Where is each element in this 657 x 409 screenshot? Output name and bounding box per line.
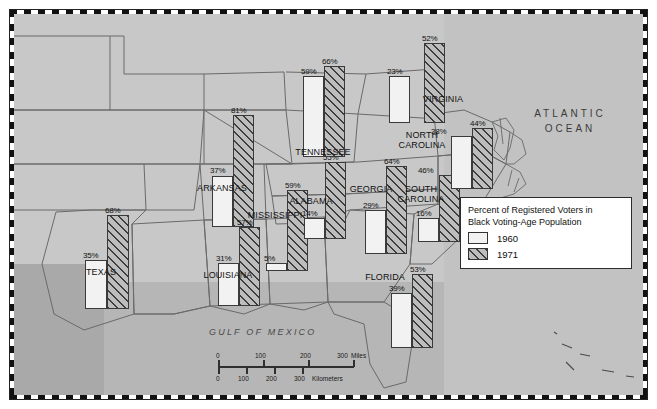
atlantic-ocean-label: ATLANTIC OCEAN [500,106,640,136]
bar-label-arkansas-1971: 81% [231,106,246,115]
scale-tick-miles-0 [218,360,220,367]
bar-label-arkansas-1960: 37% [210,166,225,175]
bar-north-carolina-1960 [451,136,472,189]
legend-title-line2: Black Voting-Age Population [468,216,624,228]
scale-tick-km-100 [246,367,248,374]
bar-label-texas-1960: 35% [83,251,98,260]
state-label-alabama: ALABAMA [279,196,343,206]
bar-label-virginia-1971: 52% [422,34,437,43]
legend-swatch-1971-icon [468,248,488,260]
bar-tennessee-1960 [303,76,324,157]
scale-tick-km-200 [274,367,276,374]
bar-florida-1960 [391,293,412,348]
bar-alabama-1960 [304,218,325,239]
bar-label-south-carolina-1971: 46% [418,166,433,175]
scale-unit-miles: Miles [351,352,366,359]
atlantic-ocean-label-line2: OCEAN [545,123,596,134]
legend-entry-1960: 1960 [468,232,624,244]
scale-tick-km-0 [218,367,220,374]
state-label-florida: FLORIDA [358,272,412,282]
bar-louisiana-1971 [239,227,260,306]
bar-label-tennessee-1960: 59% [301,67,316,76]
scale-tick-miles-200 [308,360,310,367]
bar-tennessee-1971 [324,66,345,157]
legend-title-line1: Percent of Registered Voters in [468,204,624,216]
state-label-virginia: VIRGINIA [412,94,474,104]
atlantic-ocean-label-line1: ATLANTIC [534,108,606,119]
scale-unit-km: Kilometers [312,375,343,382]
bar-south-carolina-1960 [418,218,439,242]
scale-label-km-300: 300 [294,375,305,382]
scale-tick-miles-100 [263,360,265,367]
state-label-louisiana: LOUISIANA [194,270,262,280]
scale-tick-miles-300 [353,360,355,367]
scale-label-km-100: 100 [238,375,249,382]
state-label-north-carolina: NORTH CAROLINA [390,130,454,150]
map-scale-bar: 0 100 200 300 Miles 0 100 200 300 Kilome… [212,352,372,386]
state-label-tennessee: TENNESSEE [284,147,362,157]
bar-label-mississippi-1960: 5% [264,254,275,263]
scale-label-km-0: 0 [216,375,220,382]
bar-mississippi-1960 [266,263,287,271]
bar-label-tennessee-1971: 66% [322,57,337,66]
scale-label-miles-100: 100 [255,352,266,359]
bar-georgia-1971 [386,166,407,254]
bar-label-georgia-1960: 29% [363,201,378,210]
bar-label-texas-1971: 68% [105,206,120,215]
scale-bar-line [218,366,354,368]
bar-label-alabama-1960: 14% [302,209,317,218]
state-label-south-carolina-line1: SOUTH [405,184,437,194]
bar-label-virginia-1960: 23% [387,67,402,76]
scale-label-km-200: 200 [266,375,277,382]
state-label-north-carolina-line1: NORTH [406,130,438,140]
bar-texas-1971 [107,215,129,309]
gulf-of-mexico-label: GULF OF MEXICO [209,327,316,337]
scale-tick-km-300 [302,367,304,374]
bar-label-georgia-1971: 64% [384,157,399,166]
bar-florida-1971 [412,274,433,348]
bar-north-carolina-1971 [472,128,493,189]
state-label-arkansas: ARKANSAS [189,183,255,193]
scale-label-miles-0: 0 [216,352,220,359]
bar-label-florida-1960: 39% [389,284,404,293]
legend-label-1971: 1971 [497,249,518,260]
bar-label-louisiana-1960: 31% [216,254,231,263]
bar-label-north-carolina-1971: 44% [470,119,485,128]
scale-label-miles-200: 200 [300,352,311,359]
bar-georgia-1960 [365,210,386,254]
legend-swatch-1960-icon [468,232,488,244]
bar-virginia-1960 [389,76,410,123]
state-label-texas: TEXAS [78,267,124,277]
bar-label-florida-1971: 53% [410,265,425,274]
voter-registration-map: 35% 68% TEXAS 37% 81% ARKANSAS 31% 57% L… [0,0,657,409]
bar-virginia-1971 [424,43,445,123]
scale-label-miles-300: 300 [337,352,348,359]
bar-label-mississippi-1971: 59% [285,181,300,190]
map-legend: Percent of Registered Voters in Black Vo… [460,197,632,269]
legend-label-1960: 1960 [497,233,518,244]
state-label-north-carolina-line2: CAROLINA [399,140,446,150]
legend-entry-1971: 1971 [468,248,624,260]
state-label-south-carolina: SOUTH CAROLINA [389,184,453,204]
bar-label-south-carolina-1960: 16% [416,209,431,218]
state-label-south-carolina-line2: CAROLINA [398,194,445,204]
